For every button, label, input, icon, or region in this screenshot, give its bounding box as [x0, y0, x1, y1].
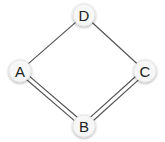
edge-line — [26, 79, 75, 121]
edge-line — [93, 79, 139, 121]
node-label: D — [79, 7, 90, 24]
edges-group — [26, 22, 139, 122]
node-label: C — [140, 63, 151, 80]
edge-line — [91, 22, 137, 64]
node-d: D — [73, 4, 95, 26]
edge-line — [28, 22, 77, 65]
node-b: B — [73, 115, 95, 137]
nodes-group: DACB — [9, 4, 156, 137]
edge-b-c-double — [90, 76, 139, 121]
edge-d-c-single — [91, 22, 137, 64]
node-a: A — [9, 60, 31, 82]
edge-line — [90, 76, 136, 118]
edge-line — [29, 76, 78, 118]
node-c: C — [134, 60, 156, 82]
node-label: B — [79, 118, 89, 135]
graph-diagram: DACB — [0, 0, 165, 142]
edge-a-d-single — [28, 22, 77, 65]
node-label: A — [15, 63, 25, 80]
edge-a-b-double — [26, 76, 78, 121]
